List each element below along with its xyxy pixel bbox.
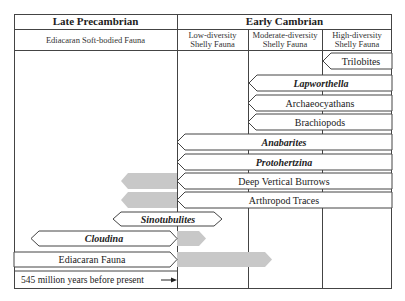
label-lapworthella: Lapworthella xyxy=(292,78,348,89)
boundary-note: 545 million years before present xyxy=(21,275,144,285)
deep-burrows-uncertain xyxy=(121,173,177,189)
label-brachiopods: Brachiopods xyxy=(295,117,346,128)
ediacaran-uncertain xyxy=(177,252,272,267)
label-ediacaran: Ediacaran Fauna xyxy=(59,254,126,265)
label-anabarites: Anabarites xyxy=(260,137,306,148)
cloudina-uncertain xyxy=(177,231,206,246)
label-cloudina: Cloudina xyxy=(85,233,123,244)
label-trilobites: Trilobites xyxy=(342,56,381,67)
label-arthropod: Arthropod Traces xyxy=(249,195,319,206)
label-deep-burrows: Deep Vertical Burrows xyxy=(238,176,330,187)
label-sinotubulites: Sinotubulites xyxy=(141,214,196,225)
label-archaeocyathans: Archaeocyathans xyxy=(286,98,355,109)
label-protohertzina: Protohertzina xyxy=(256,157,313,168)
range-bars: Trilobites Lapworthella Archaeocyathans … xyxy=(0,0,405,301)
arthropod-uncertain xyxy=(121,192,177,208)
